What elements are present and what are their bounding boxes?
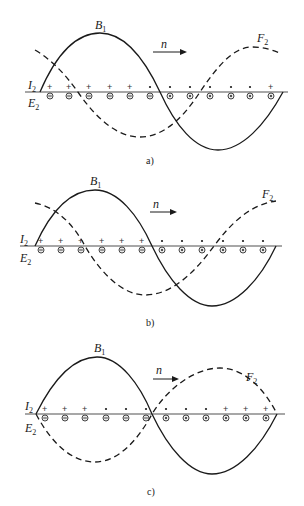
n-label: n bbox=[153, 197, 159, 211]
dot-mark-icon bbox=[125, 408, 127, 410]
conductor-dot-icon bbox=[230, 95, 232, 97]
dot-mark-icon bbox=[189, 86, 191, 88]
dot-mark-icon bbox=[105, 408, 107, 410]
caption-b: b) bbox=[146, 317, 154, 329]
conductor-dot-icon bbox=[242, 249, 244, 251]
dot-mark-icon bbox=[201, 240, 203, 242]
f2-label: F2 bbox=[245, 370, 257, 386]
rotation-arrow: n bbox=[150, 197, 177, 215]
b1-label: B1 bbox=[90, 174, 101, 190]
dot-mark-icon bbox=[165, 408, 167, 410]
dot-mark-icon bbox=[230, 86, 232, 88]
dot-mark-icon bbox=[161, 240, 163, 242]
plus-mark-icon: + bbox=[58, 236, 63, 246]
plus-mark-icon: + bbox=[119, 236, 124, 246]
conductor-dot-icon bbox=[169, 95, 171, 97]
caption-a: a) bbox=[146, 155, 154, 167]
dot-mark-icon bbox=[242, 240, 244, 242]
dot-mark-icon bbox=[169, 86, 171, 88]
plus-mark-icon: + bbox=[82, 404, 87, 414]
conductor-dot-icon bbox=[185, 417, 187, 419]
plus-mark-icon: + bbox=[66, 82, 71, 92]
conductor-dot-icon bbox=[249, 95, 251, 97]
conductor-dot-icon bbox=[265, 417, 267, 419]
plus-mark-icon: + bbox=[139, 236, 144, 246]
i2-label: I2 bbox=[27, 78, 36, 94]
conductor-dot-icon bbox=[205, 417, 207, 419]
i2-label: I2 bbox=[19, 232, 28, 248]
f2-label: F2 bbox=[256, 31, 268, 47]
f2-mmf-curve bbox=[36, 368, 277, 462]
figure-canvas: n B1 F2 I2 E2 ++++++ a) n B1 F2 I2 E2 ++… bbox=[0, 0, 304, 506]
conductor-dot-icon bbox=[189, 95, 191, 97]
e2-label: E2 bbox=[27, 96, 39, 112]
plus-mark-icon: + bbox=[47, 82, 52, 92]
dot-mark-icon bbox=[209, 86, 211, 88]
plus-mark-icon: + bbox=[86, 82, 91, 92]
conductor-dot-icon bbox=[245, 417, 247, 419]
caption-c: c) bbox=[147, 486, 155, 498]
dot-mark-icon bbox=[185, 408, 187, 410]
rotation-arrow: n bbox=[153, 37, 187, 55]
n-label: n bbox=[161, 37, 167, 51]
dot-mark-icon bbox=[149, 86, 151, 88]
dot-mark-icon bbox=[205, 408, 207, 410]
e2-label: E2 bbox=[24, 421, 36, 437]
dot-mark-icon bbox=[249, 86, 251, 88]
rotation-arrow: n bbox=[153, 363, 179, 382]
plus-mark-icon: + bbox=[107, 82, 112, 92]
conductor-dot-icon bbox=[209, 95, 211, 97]
conductor-dot-icon bbox=[165, 417, 167, 419]
conductors-c: ++++++ bbox=[42, 404, 269, 421]
b1-label: B1 bbox=[94, 341, 105, 357]
dot-mark-icon bbox=[222, 240, 224, 242]
plus-mark-icon: + bbox=[38, 236, 43, 246]
plus-mark-icon: + bbox=[42, 404, 47, 414]
panel-b: n B1 F2 I2 E2 ++++++ b) bbox=[19, 174, 282, 329]
dot-mark-icon bbox=[262, 240, 264, 242]
plus-mark-icon: + bbox=[223, 404, 228, 414]
b1-label: B1 bbox=[95, 18, 106, 34]
panel-a: n B1 F2 I2 E2 ++++++ a) bbox=[25, 18, 288, 167]
dot-mark-icon bbox=[145, 408, 147, 410]
f2-mmf-curve bbox=[35, 201, 276, 295]
dot-mark-icon bbox=[181, 240, 183, 242]
conductor-dot-icon bbox=[225, 417, 227, 419]
f2-label: F2 bbox=[261, 187, 273, 203]
plus-mark-icon: + bbox=[62, 404, 67, 414]
n-label: n bbox=[156, 363, 162, 377]
conductor-dot-icon bbox=[262, 249, 264, 251]
plus-mark-icon: + bbox=[243, 404, 248, 414]
i2-label: I2 bbox=[24, 399, 33, 415]
conductor-dot-icon bbox=[181, 249, 183, 251]
plus-mark-icon: + bbox=[268, 82, 273, 92]
e2-label: E2 bbox=[19, 251, 31, 267]
plus-mark-icon: + bbox=[99, 236, 104, 246]
plus-mark-icon: + bbox=[263, 404, 268, 414]
conductor-dot-icon bbox=[201, 249, 203, 251]
panel-c: n B1 F2 I2 E2 ++++++ c) bbox=[24, 341, 285, 498]
plus-mark-icon: + bbox=[78, 236, 83, 246]
conductor-dot-icon bbox=[270, 95, 272, 97]
plus-mark-icon: + bbox=[127, 82, 132, 92]
conductor-dot-icon bbox=[161, 249, 163, 251]
conductor-dot-icon bbox=[222, 249, 224, 251]
